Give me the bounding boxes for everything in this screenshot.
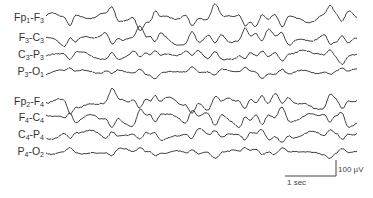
trace-p3-o1	[46, 67, 357, 79]
trace-c3-p3	[46, 50, 357, 65]
channel-label-c4-p4: C4-P4	[18, 128, 44, 144]
trace-c4-p4	[46, 128, 357, 142]
channel-label-p4-o2: P4-O2	[18, 145, 45, 161]
trace-p4-o2	[46, 147, 357, 158]
trace-fp2-f4	[46, 88, 357, 114]
channel-label-f3-c3: F3-C3	[19, 31, 44, 47]
channel-label-f4-c4: F4-C4	[19, 111, 44, 127]
channel-label-c3-p3: C3-P3	[18, 48, 44, 64]
amplitude-scale-label: 100 µV	[338, 165, 364, 174]
channel-label-fp1-f3: Fp1-F3	[14, 11, 44, 27]
trace-f4-c4	[46, 107, 357, 127]
channel-label-fp2-f4: Fp2-F4	[14, 95, 44, 111]
time-scale-label: 1 sec	[287, 178, 306, 187]
trace-f3-c3	[46, 26, 357, 47]
channel-label-p3-o1: P3-O1	[18, 65, 45, 81]
eeg-traces	[0, 0, 373, 198]
eeg-figure: Fp1-F3F3-C3C3-P3P3-O1Fp2-F4F4-C4C4-P4P4-…	[0, 0, 373, 198]
trace-fp1-f3	[46, 4, 357, 31]
